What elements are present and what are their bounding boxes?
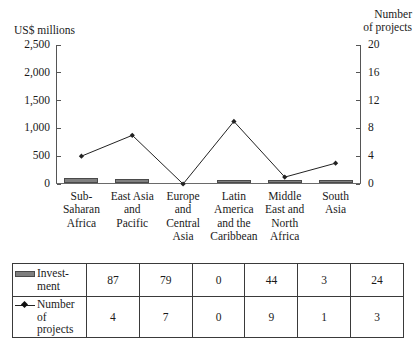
table-cell-value: 24 — [351, 264, 404, 297]
x-axis-category-label: Europe and Central Asia — [158, 190, 209, 244]
right-tick-label: 20 — [368, 39, 380, 51]
table-row-legend-label: Invest- ment — [13, 264, 87, 297]
table-cell-value: 87 — [86, 264, 139, 297]
table-cell-value: 7 — [139, 297, 192, 338]
legend-label-text: Number of projects — [37, 298, 83, 336]
line-marker — [333, 161, 338, 166]
plot-area: 05001,0001,5002,0002,500 048121620 — [56, 45, 361, 184]
x-axis-category-label: Middle East and North Africa — [259, 190, 310, 244]
line-marker — [79, 154, 84, 159]
table-cell-value: 79 — [139, 264, 192, 297]
table-cell-value: 44 — [245, 264, 298, 297]
left-tick-label: 0 — [44, 178, 50, 190]
x-axis-category-label: South Asia — [310, 190, 361, 217]
right-tick-label: 0 — [368, 178, 374, 190]
line-path — [81, 121, 335, 184]
table-cell-value: 1 — [298, 297, 351, 338]
right-tick-label: 8 — [368, 122, 374, 134]
x-axis-category-label: Sub- Saharan Africa — [56, 190, 107, 230]
line-series-number-of-projects — [56, 45, 361, 184]
legend-label-text: Invest- ment — [37, 267, 83, 292]
category-labels: Sub- Saharan AfricaEast Asia and Pacific… — [56, 190, 361, 250]
table-cell-value: 0 — [192, 297, 245, 338]
right-tick-label: 12 — [368, 95, 380, 107]
table-cell-value: 9 — [245, 297, 298, 338]
chart-region: US$ millions Number of projects 05001,00… — [0, 0, 418, 252]
line-marker-icon — [15, 301, 35, 309]
right-tick-label: 16 — [368, 67, 380, 79]
right-axis-title: Number of projects — [363, 8, 412, 33]
left-tick-label: 2,500 — [24, 39, 50, 51]
x-axis-category-label: Latin America and the Caribbean — [209, 190, 260, 244]
table-cell-value: 3 — [298, 264, 351, 297]
left-axis-title: US$ millions — [14, 24, 75, 37]
table-cell-value: 3 — [351, 297, 404, 338]
table-row-legend-label: Number of projects — [13, 297, 87, 338]
right-tick-label: 4 — [368, 150, 374, 162]
left-tick-label: 1,500 — [24, 95, 50, 107]
table-cell-value: 4 — [86, 297, 139, 338]
left-tick-label: 1,000 — [24, 122, 50, 134]
table-cell-value: 0 — [192, 264, 245, 297]
bar-swatch-icon — [15, 271, 35, 277]
x-axis-category-label: East Asia and Pacific — [107, 190, 158, 230]
left-tick-label: 500 — [33, 150, 50, 162]
data-table: Invest- ment8779044324Number of projects… — [12, 263, 404, 338]
left-tick-label: 2,000 — [24, 67, 50, 79]
table-row: Invest- ment8779044324 — [13, 264, 404, 297]
table-row: Number of projects470913 — [13, 297, 404, 338]
